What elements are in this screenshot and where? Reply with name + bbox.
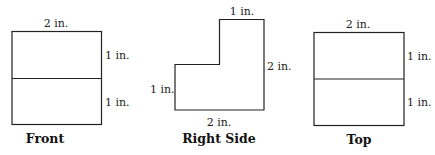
front-right-upper-dimension: 1 in. xyxy=(105,49,130,62)
top-right-upper-dimension: 1 in. xyxy=(407,50,432,63)
front-caption: Front xyxy=(26,131,65,146)
top-right-lower-dimension: 1 in. xyxy=(407,96,432,109)
right-side-outline xyxy=(175,20,264,111)
right-side-right-dimension: 2 in. xyxy=(267,60,292,73)
top-top-dimension: 2 in. xyxy=(346,18,371,31)
right-side-left-dimension: 1 in. xyxy=(150,83,175,96)
top-view: 2 in. 1 in. 1 in. Top xyxy=(314,18,432,147)
right-side-view: 1 in. 2 in. 1 in. 2 in. Right Side xyxy=(150,5,292,146)
top-caption: Top xyxy=(347,132,372,147)
right-side-bottom-dimension: 2 in. xyxy=(207,116,232,129)
right-side-caption: Right Side xyxy=(182,131,256,146)
front-right-lower-dimension: 1 in. xyxy=(105,96,130,109)
front-top-dimension: 2 in. xyxy=(44,17,69,30)
orthographic-views-diagram: 2 in. 1 in. 1 in. Front 1 in. 2 in. 1 in… xyxy=(0,0,435,155)
front-view: 2 in. 1 in. 1 in. Front xyxy=(12,17,130,146)
right-side-top-dimension: 1 in. xyxy=(230,5,255,18)
